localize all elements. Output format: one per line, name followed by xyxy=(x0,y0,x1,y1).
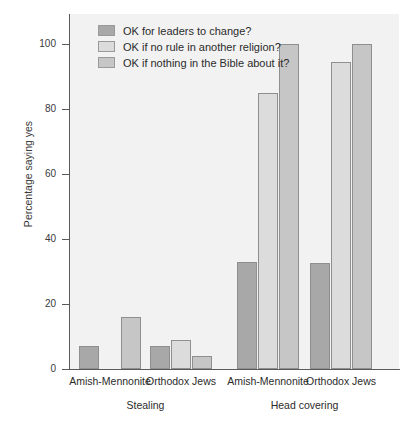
chart-legend: OK for leaders to change? OK if no rule … xyxy=(98,23,289,71)
y-axis-line xyxy=(69,14,70,370)
bar xyxy=(192,356,212,369)
y-tick-mark xyxy=(62,304,70,305)
bar xyxy=(79,346,99,369)
legend-swatch-series-3 xyxy=(98,57,115,68)
bar xyxy=(310,263,330,369)
bar xyxy=(331,62,351,369)
bar xyxy=(258,93,278,369)
legend-item: OK for leaders to change? xyxy=(98,23,289,38)
y-tick-label: 20 xyxy=(0,299,56,309)
bar xyxy=(352,44,372,369)
y-tick-mark xyxy=(62,109,70,110)
legend-swatch-series-2 xyxy=(98,41,115,52)
y-tick-mark xyxy=(62,239,70,240)
legend-swatch-series-1 xyxy=(98,25,115,36)
legend-item: OK if no rule in another religion? xyxy=(98,39,289,54)
bar xyxy=(171,340,191,369)
y-tick-mark xyxy=(62,369,70,370)
bar xyxy=(279,44,299,369)
x-group-label: Head covering xyxy=(235,399,375,411)
x-category-label: Orthodox Jews xyxy=(281,375,401,387)
x-axis-line xyxy=(69,369,400,370)
y-tick-label: 100 xyxy=(0,39,56,49)
bar xyxy=(150,346,170,369)
bar-chart-figure: 020406080100 Percentage saying yes OK fo… xyxy=(0,0,413,428)
y-axis-title: Percentage saying yes xyxy=(22,84,34,264)
legend-label-series-2: OK if no rule in another religion? xyxy=(123,41,281,53)
x-group-label: Stealing xyxy=(76,399,216,411)
bar xyxy=(237,262,257,369)
legend-label-series-1: OK for leaders to change? xyxy=(123,25,251,37)
legend-label-series-3: OK if nothing in the Bible about it? xyxy=(123,57,289,69)
legend-item: OK if nothing in the Bible about it? xyxy=(98,55,289,70)
y-tick-label: 0 xyxy=(0,364,56,374)
bar xyxy=(121,317,141,369)
y-tick-mark xyxy=(62,44,70,45)
y-tick-mark xyxy=(62,174,70,175)
